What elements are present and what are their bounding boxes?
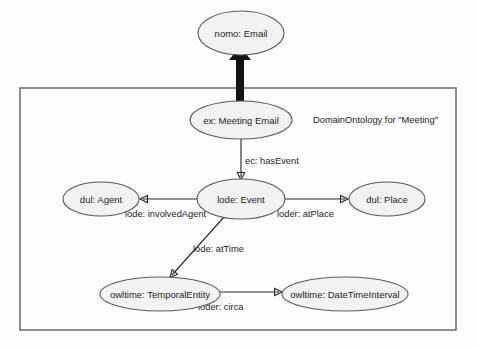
node-meeting-email[interactable]: ex: Meeting Email bbox=[190, 101, 292, 139]
edge-label-at-place: loder: atPlace bbox=[277, 209, 334, 219]
node-label-nomo-email: nomo: Email bbox=[215, 28, 268, 39]
node-label-lode-event: lode: Event bbox=[217, 194, 265, 205]
node-dul-agent[interactable]: dul: Agent bbox=[63, 182, 139, 216]
node-label-dul-agent: dul: Agent bbox=[80, 194, 123, 205]
edge-at-place: loder: atPlace bbox=[277, 195, 348, 219]
boundary-label: DomainOntology for "Meeting" bbox=[313, 115, 438, 125]
edge-has-event: ec: hasEvent bbox=[237, 139, 299, 180]
node-lode-event[interactable]: lode: Event bbox=[197, 179, 285, 219]
subclass-arrow-shaft bbox=[236, 56, 244, 105]
node-owltime-datetimeinterval[interactable]: owltime: DateTimeInterval bbox=[282, 277, 408, 311]
diagram-canvas: DomainOntology for "Meeting" ec: hasEven… bbox=[0, 0, 477, 348]
node-label-owltime-temporalentity: owltime: TemporalEntity bbox=[110, 289, 210, 300]
node-nomo-email[interactable]: nomo: Email bbox=[198, 11, 284, 55]
node-owltime-temporalentity[interactable]: owltime: TemporalEntity bbox=[100, 277, 220, 311]
node-label-owltime-datetimeinterval: owltime: DateTimeInterval bbox=[290, 289, 399, 300]
node-label-meeting-email: ex: Meeting Email bbox=[203, 115, 279, 126]
edge-label-involved-agent: lode: involvedAgent bbox=[125, 209, 207, 219]
node-label-dul-place: dul: Place bbox=[366, 194, 408, 205]
node-dul-place[interactable]: dul: Place bbox=[349, 182, 425, 216]
ontology-diagram: DomainOntology for "Meeting" ec: hasEven… bbox=[0, 0, 477, 348]
edge-label-has-event: ec: hasEvent bbox=[245, 156, 299, 166]
edge-at-time: lode: atTime bbox=[170, 217, 244, 278]
edge-label-at-time: lode: atTime bbox=[193, 244, 244, 254]
